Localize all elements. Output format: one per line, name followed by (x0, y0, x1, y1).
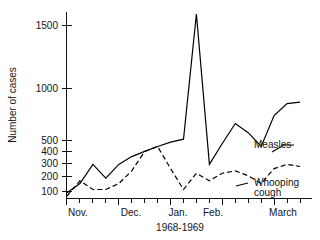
line-chart: Number of cases 1500 1000 500 400 300 20… (0, 0, 320, 240)
x-label-march: March (269, 207, 297, 218)
chart-container: Number of cases 1500 1000 500 400 300 20… (0, 0, 320, 240)
x-label-jan: Jan. (169, 207, 188, 218)
y-tick-label-200: 200 (41, 171, 58, 182)
y-tick-label-1000: 1000 (36, 83, 59, 94)
y-tick-label-1500: 1500 (36, 20, 59, 31)
y-tick-label-400: 400 (41, 146, 58, 157)
y-axis-title: Number of cases (7, 67, 18, 143)
x-axis-period-label: 1968-1969 (156, 222, 204, 233)
x-label-feb: Feb. (203, 207, 223, 218)
series-label-cough: cough (254, 187, 281, 198)
series-label-measles: Measles (254, 139, 291, 150)
y-tick-label-300: 300 (41, 158, 58, 169)
whooping-cough-leader-line (236, 183, 248, 186)
y-tick-label-100: 100 (41, 186, 58, 197)
x-tick-marks (67, 198, 301, 205)
y-tick-label-500: 500 (41, 135, 58, 146)
x-label-dec: Dec. (121, 207, 142, 218)
x-label-nov: Nov. (68, 207, 88, 218)
series-line-measles (67, 14, 300, 193)
